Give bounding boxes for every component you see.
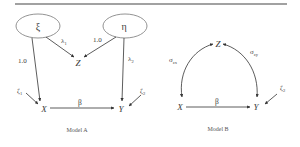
model-b-caption: Model B [207,126,228,132]
observed-z-label: Z [75,58,81,68]
observed-z-label-b: Z [215,39,221,49]
path-zeta2-to-y-b [265,94,277,104]
path-label-beta: β [78,98,82,107]
error-zeta2-label: ζ2 [140,87,145,96]
sem-diagram: ξ η Z X Y 1.0 λ1 1.0 λ2 β ζ1 ζ2 Model A … [0,0,300,147]
path-label-xi-z: λ1 [61,37,67,46]
latent-xi-label: ξ [36,21,41,33]
observed-y-label: Y [118,104,124,114]
path-label-sigma-zy: σzy [250,48,259,57]
path-zeta1-to-x [26,93,38,104]
observed-x-label: X [40,104,47,114]
model-a-caption: Model A [66,127,88,133]
path-label-sigma-zx: σzx [169,56,178,65]
path-label-beta-b: β [215,97,219,106]
covariance-zx-arc [181,44,213,97]
path-label-eta-y: λ2 [128,55,134,64]
model-b: Z X Y σzx σzy β ζ2 Model B [169,39,285,132]
error-zeta1-label: ζ1 [17,87,22,96]
path-xi-to-x [32,38,40,101]
observed-y-label-b: Y [253,102,259,112]
observed-x-label-b: X [176,102,183,112]
model-a: ξ η Z X Y 1.0 λ1 1.0 λ2 β ζ1 ζ2 Model A [16,14,147,133]
path-label-eta-z: 1.0 [93,36,102,44]
path-zeta2-to-y [129,95,141,106]
error-zeta2-label-b: ζ2 [280,84,285,93]
path-label-xi-x: 1.0 [18,57,27,65]
path-xi-to-z [46,37,74,57]
path-eta-to-y [122,38,124,101]
latent-eta-label: η [121,21,126,32]
